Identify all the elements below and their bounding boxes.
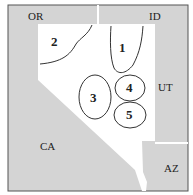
region-label-4: 4	[126, 80, 133, 95]
region-label-5: 5	[126, 107, 133, 122]
label-california: CA	[40, 140, 55, 152]
region-label-3: 3	[90, 90, 97, 105]
region-label-2: 2	[51, 34, 58, 49]
label-utah: UT	[158, 81, 173, 93]
nevada-map: OR ID UT CA AZ 1 2 3 4 5	[0, 0, 193, 195]
label-idaho: ID	[149, 10, 161, 22]
label-oregon: OR	[28, 10, 44, 22]
region-label-1: 1	[119, 40, 126, 55]
label-arizona: AZ	[164, 162, 179, 174]
